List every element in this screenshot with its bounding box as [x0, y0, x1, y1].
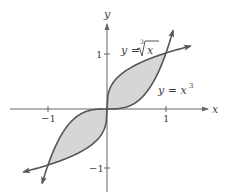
shaded-region-negative	[48, 109, 107, 165]
cubic-label-text: y = x	[157, 84, 187, 97]
y-tick-label-neg1: −1	[89, 163, 104, 174]
y-tick-label-1: 1	[96, 49, 102, 60]
function-graph: x y −1 1 1 −1 y = 3 x y = x 3	[0, 0, 228, 194]
cubic-label-exponent: 3	[189, 82, 193, 90]
x-tick-label-neg1: −1	[41, 113, 56, 124]
x-tick-label-1: 1	[163, 113, 169, 124]
cube-root-label-lhs: y =	[120, 44, 140, 57]
cube-root-radicand: x	[147, 44, 154, 57]
x-axis-label: x	[212, 103, 219, 116]
cubic-label: y = x 3	[157, 82, 193, 97]
shaded-region-positive	[107, 53, 166, 109]
cube-root-index: 3	[140, 38, 144, 45]
y-axis-label: y	[103, 8, 111, 21]
cube-root-label: y = 3 x	[120, 38, 159, 57]
